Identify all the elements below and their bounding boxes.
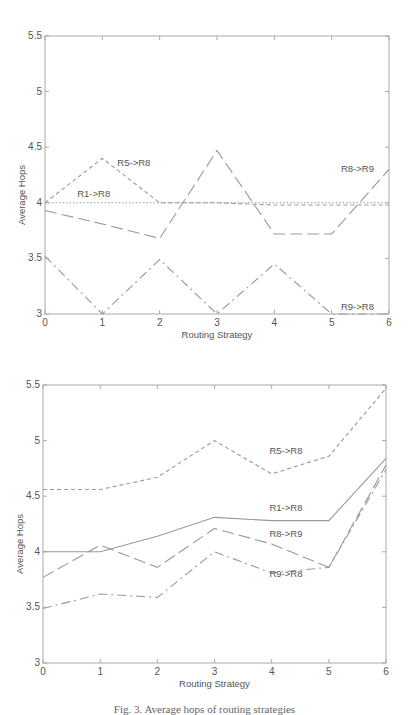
x-tick-label: 1 bbox=[100, 317, 106, 328]
x-tick-label: 4 bbox=[269, 666, 275, 677]
y-axis-label: Average Hops bbox=[14, 514, 25, 574]
x-tick-label: 5 bbox=[326, 666, 332, 677]
series-annotation: R9->R8 bbox=[269, 568, 302, 579]
series-line-r5-to-r8 bbox=[43, 388, 386, 489]
y-tick-label: 3 bbox=[36, 308, 42, 319]
y-tick-label: 5.5 bbox=[28, 30, 42, 41]
y-tick-label: 4 bbox=[36, 197, 42, 208]
figure-caption: Fig. 3. Average hops of routing strategi… bbox=[0, 703, 409, 715]
series-annotation: R1->R8 bbox=[269, 502, 302, 513]
y-tick-label: 3.5 bbox=[26, 601, 40, 612]
chart-bottom: 012345633.544.555.5Routing StrategyAvera… bbox=[0, 350, 409, 700]
y-tick-label: 3 bbox=[34, 657, 40, 668]
series-line-r9-to-r8 bbox=[45, 256, 389, 314]
x-tick-label: 2 bbox=[157, 317, 163, 328]
plot-frame bbox=[45, 36, 389, 314]
y-tick-label: 5 bbox=[36, 86, 42, 97]
x-tick-label: 3 bbox=[212, 666, 218, 677]
series-annotation: R5->R8 bbox=[117, 157, 150, 168]
chart-top: 012345633.544.555.5Routing StrategyAvera… bbox=[0, 0, 409, 340]
x-tick-label: 3 bbox=[214, 317, 220, 328]
y-tick-label: 4.5 bbox=[26, 490, 40, 501]
series-line-r1-to-r8 bbox=[43, 458, 386, 551]
series-annotation: R8->R9 bbox=[269, 528, 302, 539]
x-tick-label: 6 bbox=[383, 666, 389, 677]
series-line-r9-to-r8 bbox=[43, 470, 386, 609]
x-tick-label: 1 bbox=[97, 666, 103, 677]
series-annotation: R8->R9 bbox=[341, 163, 374, 174]
x-tick-label: 0 bbox=[40, 666, 46, 677]
x-tick-label: 2 bbox=[155, 666, 161, 677]
series-annotation: R1->R8 bbox=[77, 188, 110, 199]
series-annotation: R9->R8 bbox=[341, 301, 374, 312]
series-annotation: R5->R8 bbox=[269, 445, 302, 456]
x-tick-label: 5 bbox=[329, 317, 335, 328]
x-tick-label: 6 bbox=[386, 317, 392, 328]
x-axis-label: Routing Strategy bbox=[179, 678, 250, 689]
plot-frame bbox=[43, 385, 386, 663]
y-axis-label: Average Hops bbox=[16, 165, 27, 225]
x-axis-label: Routing Strategy bbox=[182, 329, 253, 340]
x-tick-label: 0 bbox=[42, 317, 48, 328]
y-tick-label: 5 bbox=[34, 435, 40, 446]
y-tick-label: 3.5 bbox=[28, 252, 42, 263]
y-tick-label: 4.5 bbox=[28, 141, 42, 152]
series-line-r8-to-r9 bbox=[43, 465, 386, 577]
y-tick-label: 4 bbox=[34, 546, 40, 557]
y-tick-label: 5.5 bbox=[26, 379, 40, 390]
x-tick-label: 4 bbox=[272, 317, 278, 328]
